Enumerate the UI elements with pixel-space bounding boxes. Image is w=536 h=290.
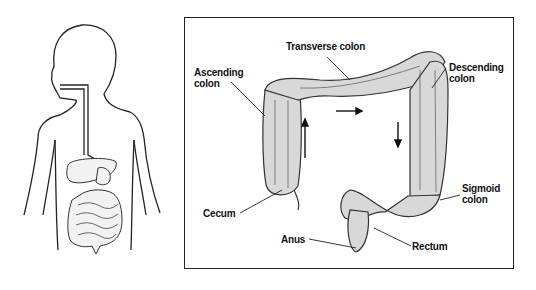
- label-transverse-colon: Transverse colon: [286, 41, 365, 52]
- label-rectum: Rectum: [412, 241, 447, 252]
- label-cecum: Cecum: [203, 208, 235, 219]
- label-anus: Anus: [281, 234, 305, 245]
- label-sigmoid-colon: Sigmoid colon: [462, 183, 500, 205]
- colon-illustration: [0, 0, 536, 290]
- flow-arrows: [302, 108, 401, 158]
- label-ascending-colon: Ascending colon: [194, 67, 243, 89]
- label-descending-colon: Descending colon: [449, 62, 504, 84]
